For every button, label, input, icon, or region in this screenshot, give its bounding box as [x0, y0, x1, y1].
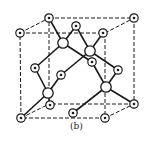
cube-edge	[20, 18, 49, 33]
lattice-atom	[99, 29, 107, 37]
cube-edge	[105, 104, 134, 118]
figure-caption: (b)	[0, 121, 153, 131]
lattice-atom	[72, 22, 80, 30]
interior-atom	[101, 82, 111, 92]
lattice-atom	[31, 64, 39, 72]
interior-atom	[85, 46, 95, 56]
lattice-atom	[57, 71, 65, 79]
lattice-atom	[114, 66, 122, 74]
lattice-atom	[130, 14, 138, 22]
lattice-atom	[130, 100, 138, 108]
interior-atom	[43, 88, 53, 98]
lattice-atom	[88, 58, 96, 66]
lattice-atom	[45, 14, 53, 22]
lattice-atom	[69, 109, 77, 117]
interior-atom	[58, 38, 68, 48]
bond	[73, 87, 106, 113]
cube-edge	[105, 18, 134, 33]
lattice-atom	[46, 101, 54, 109]
cube-edge	[20, 33, 21, 118]
lattice-atom	[16, 29, 24, 37]
